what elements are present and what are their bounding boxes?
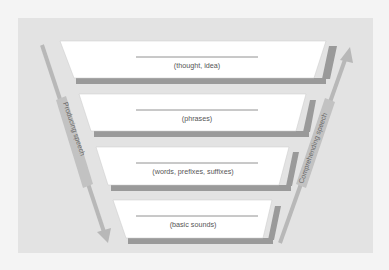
level-label: (phrases)	[182, 114, 212, 123]
panel-shadow	[76, 78, 326, 84]
level-panel-phrases: (phrases)	[79, 94, 316, 137]
level-panel-basic-sounds: (basic sounds)	[113, 200, 281, 244]
level-label: (thought, idea)	[174, 61, 220, 70]
level-label: (basic sounds)	[170, 220, 217, 229]
level-panel-words: (words, prefixes, suffixes)	[96, 147, 299, 191]
level-label: (words, prefixes, suffixes)	[152, 167, 233, 176]
panel-shadow	[128, 238, 273, 244]
panel-shadow	[94, 131, 309, 137]
language-levels-diagram: Producing speech Comprehending speech (t…	[0, 0, 389, 270]
panel-shadow	[111, 185, 291, 191]
level-panel-thought: (thought, idea)	[60, 41, 337, 84]
